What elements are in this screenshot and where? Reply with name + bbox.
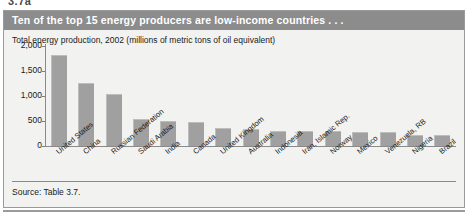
y-axis-tick-mark <box>42 146 45 147</box>
y-axis-tick-labels: 05001,0001,5002,000 <box>4 11 42 207</box>
y-axis-tick-label: 2,000 <box>8 41 42 50</box>
source-note: Source: Table 3.7. <box>12 187 80 197</box>
bar-russian-federation <box>106 94 122 146</box>
bar-chart-plot-area: 05001,0001,5002,000 United StatesChinaRu… <box>4 11 464 207</box>
y-axis-tick-mark <box>42 96 45 97</box>
figure-panel: Ten of the top 15 energy producers are l… <box>3 10 465 208</box>
y-axis-line <box>45 44 46 147</box>
y-axis-tick-mark <box>42 121 45 122</box>
y-axis-tick-label: 1,000 <box>8 91 42 100</box>
bar-united-states <box>51 55 67 146</box>
y-axis-tick-label: 500 <box>8 116 42 125</box>
figure-number: 3.7a <box>8 0 68 6</box>
figure-screenshot: 3.7a Ten of the top 15 energy producers … <box>0 0 474 218</box>
y-axis-tick-mark <box>42 71 45 72</box>
page-bottom-rule <box>3 210 465 212</box>
y-axis-tick-label: 1,500 <box>8 66 42 75</box>
footer-divider <box>12 181 456 182</box>
y-axis-tick-label: 0 <box>8 141 42 150</box>
y-axis-tick-mark <box>42 46 45 47</box>
